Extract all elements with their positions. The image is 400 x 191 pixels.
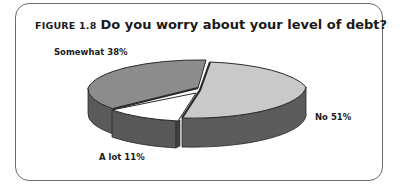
label-no: No 51%	[315, 112, 351, 122]
label-somewhat: Somewhat 38%	[54, 47, 128, 57]
pie-chart	[0, 0, 400, 191]
label-a-lot: A lot 11%	[99, 152, 145, 162]
